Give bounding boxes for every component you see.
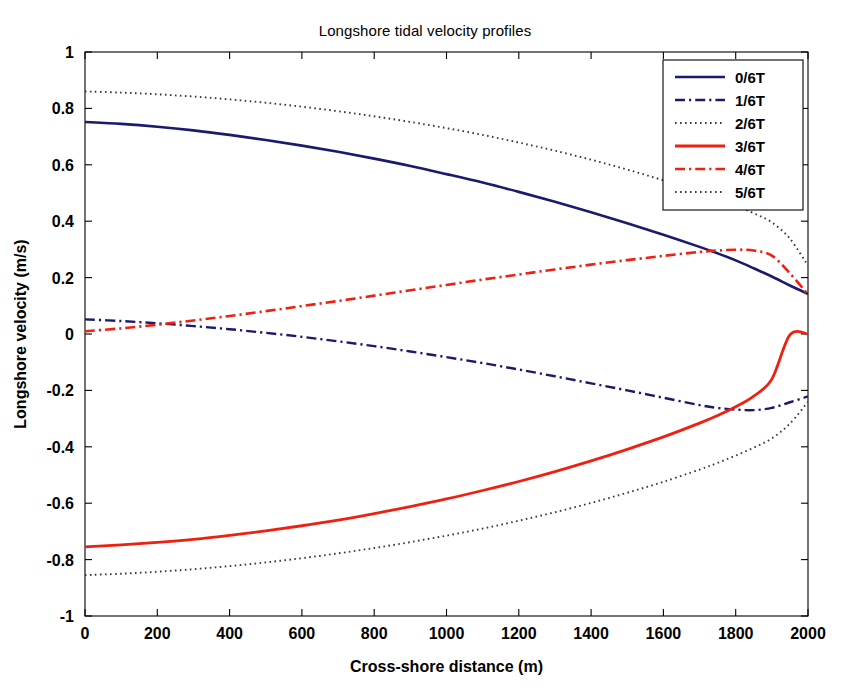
curve-5-6T (85, 402, 808, 575)
legend-box (663, 60, 803, 210)
x-tick-label: 1000 (429, 625, 465, 642)
y-axis-label: Longshore velocity (m/s) (12, 239, 29, 428)
y-tick-label: 0.2 (52, 270, 74, 287)
x-tick-label: 400 (216, 625, 243, 642)
y-tick-label: -0.4 (46, 439, 74, 456)
figure-canvas: Longshore tidal velocity profiles 020040… (0, 0, 850, 698)
legend[interactable]: 0/6T1/6T2/6T3/6T4/6T5/6T (663, 60, 803, 210)
y-tick-label: -1 (60, 608, 74, 625)
curve-4-6T (85, 250, 808, 332)
x-tick-label: 200 (144, 625, 171, 642)
x-tick-label: 1200 (501, 625, 537, 642)
chart-plot-area: 0200400600800100012001400160018002000-1-… (0, 0, 850, 698)
x-tick-label: 2000 (790, 625, 826, 642)
y-tick-label: -0.2 (46, 382, 74, 399)
x-tick-label: 800 (361, 625, 388, 642)
y-tick-label: 0.6 (52, 157, 74, 174)
x-tick-label: 0 (81, 625, 90, 642)
legend-label-3-6T[interactable]: 3/6T (735, 138, 765, 155)
x-tick-label: 600 (289, 625, 316, 642)
curve-1-6T (85, 319, 808, 410)
x-tick-label: 1400 (573, 625, 609, 642)
x-tick-label: 1800 (718, 625, 754, 642)
y-tick-label: 0 (65, 326, 74, 343)
y-tick-label: -0.8 (46, 552, 74, 569)
y-tick-label: -0.6 (46, 495, 74, 512)
y-tick-label: 0.8 (52, 100, 74, 117)
legend-label-1-6T[interactable]: 1/6T (735, 92, 765, 109)
curve-3-6T (85, 331, 808, 547)
legend-label-5-6T[interactable]: 5/6T (735, 184, 765, 201)
y-tick-label: 0.4 (52, 213, 74, 230)
legend-label-4-6T[interactable]: 4/6T (735, 161, 765, 178)
y-tick-label: 1 (65, 44, 74, 61)
x-axis-label: Cross-shore distance (m) (350, 658, 543, 675)
x-tick-label: 1600 (646, 625, 682, 642)
legend-label-0-6T[interactable]: 0/6T (735, 69, 765, 86)
legend-label-2-6T[interactable]: 2/6T (735, 115, 765, 132)
